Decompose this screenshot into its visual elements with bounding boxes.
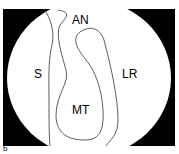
- label-s: S: [34, 68, 42, 80]
- panel-label: b: [3, 144, 7, 153]
- field-circle: [7, 0, 171, 154]
- diagram-figure: [0, 0, 179, 154]
- label-mt: MT: [72, 104, 89, 116]
- label-lr: LR: [122, 68, 137, 80]
- label-an: AN: [72, 14, 89, 26]
